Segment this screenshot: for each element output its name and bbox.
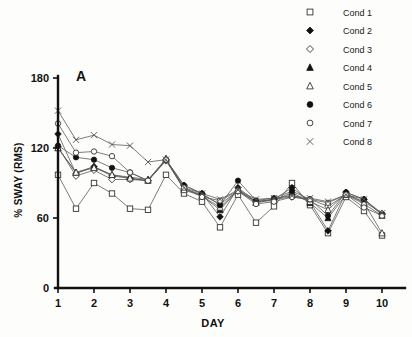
marker-filled-circle [325,213,330,218]
x-tick-label: 6 [235,297,241,309]
marker-filled-circle [289,188,294,193]
legend-label: Cond 1 [343,8,372,18]
marker-open-square [217,225,222,230]
legend-label: Cond 3 [343,45,372,55]
legend-label: Cond 5 [343,82,372,92]
x-tick-label: 1 [55,297,61,309]
marker-open-circle [307,197,312,202]
legend-label: Cond 6 [343,100,372,110]
marker-open-square [253,220,258,225]
x-tick-label: 2 [91,297,97,309]
marker-open-square [307,9,313,15]
marker-filled-circle [91,157,96,162]
x-tick-label: 10 [376,297,388,309]
y-tick-label: 180 [31,72,49,84]
x-tick-label: 7 [271,297,277,309]
marker-open-square [127,206,132,211]
sway-line-chart: 06012018012345678910 Cond 1Cond 2Cond 3C… [0,0,412,337]
legend-label: Cond 2 [343,26,372,36]
marker-open-square [109,191,114,196]
marker-open-circle [91,149,96,154]
y-axis-title: % SWAY (RMS) [13,142,24,217]
marker-open-circle [127,170,132,175]
marker-filled-circle [307,102,313,108]
legend-label: Cond 4 [343,63,372,73]
x-tick-label: 8 [307,297,313,309]
panel-label: A [76,68,86,84]
x-tick-label: 9 [343,297,349,309]
x-tick-label: 4 [163,297,170,309]
y-tick-label: 60 [37,212,49,224]
marker-open-circle [109,153,114,158]
legend-label: Cond 7 [343,119,372,129]
marker-open-circle [361,205,366,210]
x-axis-title: DAY [201,317,225,329]
marker-open-square [145,207,150,212]
marker-open-circle [73,150,78,155]
marker-filled-circle [235,178,240,183]
y-tick-label: 120 [31,142,49,154]
x-tick-label: 3 [127,297,133,309]
marker-open-square [163,172,168,177]
marker-filled-circle [109,165,114,170]
marker-open-square [91,180,96,185]
marker-open-circle [253,201,258,206]
x-tick-label: 5 [199,297,205,309]
marker-open-circle [307,120,313,126]
marker-open-square [73,206,78,211]
y-tick-label: 0 [43,282,49,294]
legend-label: Cond 8 [343,137,372,147]
marker-open-circle [289,194,294,199]
marker-open-circle [145,178,150,183]
